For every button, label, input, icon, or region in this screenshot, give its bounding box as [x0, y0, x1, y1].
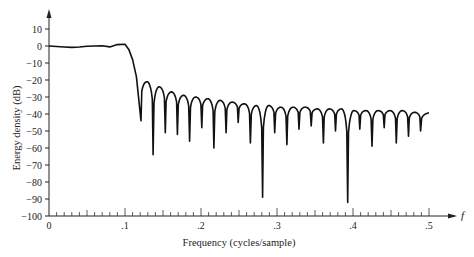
y-tick-label: −100 [21, 211, 42, 222]
y-tick-label: −60 [26, 143, 42, 154]
x-axis: 0.1.2.3.4.5 [47, 208, 458, 231]
x-tick-label: .5 [425, 220, 433, 231]
y-axis: 100−10−20−30−40−50−60−70−80−90−100 [21, 9, 51, 222]
y-tick-label: −30 [26, 92, 42, 103]
y-axis-arrow-icon [47, 9, 52, 18]
y-tick-label: 0 [37, 41, 42, 52]
x-axis-label: Frequency (cycles/sample) [183, 237, 296, 249]
x-axis-arrow-icon [448, 214, 457, 219]
y-tick-label: −40 [26, 109, 42, 120]
y-tick-label: −90 [26, 194, 42, 205]
y-tick-label: −20 [26, 75, 42, 86]
x-tick-label: .3 [273, 220, 281, 231]
y-tick-label: −10 [26, 58, 42, 69]
energy-density-curve [49, 44, 429, 202]
x-tick-label: .4 [349, 220, 357, 231]
x-tick-label: .1 [121, 220, 129, 231]
y-tick-label: −70 [26, 160, 42, 171]
y-tick-label: −50 [26, 126, 42, 137]
x-tick-label: 0 [47, 220, 52, 231]
energy-density-chart: 100−10−20−30−40−50−60−70−80−90−100 0.1.2… [0, 0, 474, 257]
x-tick-label: .2 [197, 220, 205, 231]
y-tick-label: 10 [32, 24, 42, 35]
y-axis-label: Energy density (dB) [11, 85, 23, 170]
y-tick-label: −80 [26, 177, 42, 188]
x-axis-symbol: f [461, 209, 466, 221]
